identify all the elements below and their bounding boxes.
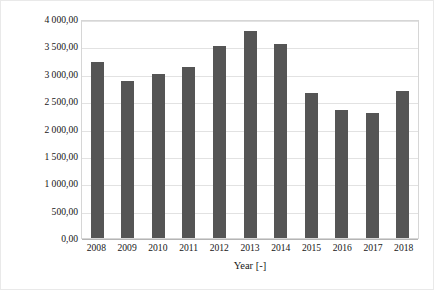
bar[interactable] bbox=[152, 74, 165, 238]
bar-slot bbox=[235, 21, 266, 238]
y-axis-tick-label: 500,00 bbox=[27, 207, 78, 217]
y-axis-tick-label: 4 000,00 bbox=[27, 15, 78, 25]
bar[interactable] bbox=[274, 44, 287, 238]
x-axis-tick-label: 2016 bbox=[327, 241, 358, 255]
bar[interactable] bbox=[91, 62, 104, 238]
y-axis-tick-label: 0,00 bbox=[27, 234, 78, 244]
x-axis-tick-label: 2009 bbox=[112, 241, 143, 255]
bar[interactable] bbox=[244, 31, 257, 239]
bar-slot bbox=[357, 21, 388, 238]
bar[interactable] bbox=[366, 113, 379, 238]
x-axis-tick-label: 2008 bbox=[81, 241, 112, 255]
x-axis-tick-label: 2017 bbox=[358, 241, 389, 255]
gridline bbox=[82, 239, 418, 240]
x-axis-tick-label: 2013 bbox=[235, 241, 266, 255]
bar[interactable] bbox=[305, 93, 318, 238]
bar-slot bbox=[143, 21, 174, 238]
bar-slot bbox=[113, 21, 144, 238]
y-axis-tick-label: 3 500,00 bbox=[27, 42, 78, 52]
bar[interactable] bbox=[182, 67, 195, 238]
plot-area bbox=[81, 20, 419, 239]
bar-slot bbox=[82, 21, 113, 238]
bar[interactable] bbox=[396, 91, 409, 238]
bar-slot bbox=[296, 21, 327, 238]
x-axis-tick-labels: 2008200920102011201220132014201520162017… bbox=[81, 241, 419, 255]
y-axis-tick-label: 1 000,00 bbox=[27, 179, 78, 189]
y-axis-tick-label: 3 000,00 bbox=[27, 70, 78, 80]
bar-slot bbox=[387, 21, 418, 238]
bar-slot bbox=[265, 21, 296, 238]
y-axis-tick-label: 2 500,00 bbox=[27, 97, 78, 107]
x-axis-tick-label: 2015 bbox=[296, 241, 327, 255]
y-axis-tick-labels: 0,00500,001 000,001 500,002 000,002 500,… bbox=[27, 13, 78, 243]
y-axis-tick-label: 1 500,00 bbox=[27, 152, 78, 162]
x-axis-tick-label: 2014 bbox=[265, 241, 296, 255]
bar[interactable] bbox=[121, 81, 134, 238]
x-axis-tick-label: 2012 bbox=[204, 241, 235, 255]
x-axis-tick-label: 2018 bbox=[388, 241, 419, 255]
bars-layer bbox=[82, 21, 418, 238]
x-axis-tick-label: 2010 bbox=[142, 241, 173, 255]
x-axis-tick-label: 2011 bbox=[173, 241, 204, 255]
bar[interactable] bbox=[213, 46, 226, 238]
bar[interactable] bbox=[335, 110, 348, 238]
bar-slot bbox=[204, 21, 235, 238]
bar-chart-figure: GNI per capita, Atlas method [current US… bbox=[0, 0, 434, 290]
bar-slot bbox=[326, 21, 357, 238]
x-axis-title: Year [-] bbox=[81, 259, 419, 273]
bar-slot bbox=[174, 21, 205, 238]
y-axis-tick-label: 2 000,00 bbox=[27, 125, 78, 135]
